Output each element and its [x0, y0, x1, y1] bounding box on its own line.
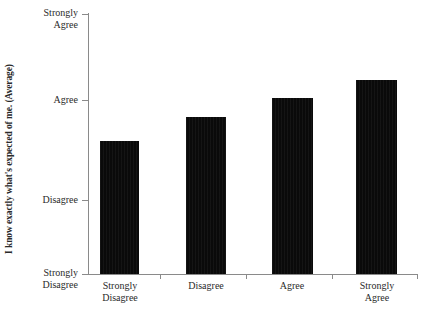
y-tick-mark-agree [82, 100, 89, 101]
x-tick-label-strongly-disagree: Strongly Disagree [80, 280, 160, 304]
x-tick-mark-4 [417, 274, 418, 279]
bar-disagree [186, 117, 226, 274]
bar-strongly-agree [356, 80, 397, 274]
y-tick-mark-strongly-agree [82, 14, 89, 15]
x-tick-mark-3 [332, 274, 333, 279]
y-axis-line [88, 13, 89, 275]
bar-chart: I know exactly what's expected of me. (A… [0, 0, 427, 318]
x-tick-mark-1 [160, 274, 161, 279]
bar-strongly-disagree [100, 141, 139, 274]
y-tick-label-disagree: Disagree [0, 194, 78, 206]
x-axis-line [88, 274, 418, 275]
y-tick-mark-strongly-disagree [82, 274, 89, 275]
y-tick-label-agree: Agree [0, 94, 78, 106]
y-tick-mark-disagree [82, 200, 89, 201]
x-tick-label-agree: Agree [252, 280, 332, 292]
y-tick-label-strongly-agree: Strongly Agree [0, 7, 78, 30]
x-tick-label-strongly-agree: Strongly Agree [337, 280, 417, 304]
y-tick-label-strongly-disagree: Strongly Disagree [0, 267, 78, 290]
bar-agree [272, 98, 313, 274]
x-tick-label-disagree: Disagree [166, 280, 246, 292]
x-tick-mark-2 [246, 274, 247, 279]
